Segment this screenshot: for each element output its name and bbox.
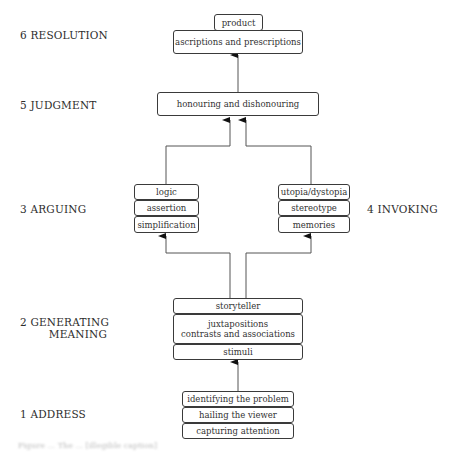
box-utopia-dystopia: utopia/dystopia bbox=[278, 184, 350, 200]
stage-label-resolution: 6 RESOLUTION bbox=[20, 29, 108, 41]
stage-label-address: 1 ADDRESS bbox=[20, 408, 86, 420]
box-identifying-problem: identifying the problem bbox=[182, 391, 294, 407]
stage-label-generating-meaning: 2 GENERATING MEANING bbox=[20, 316, 107, 340]
stage-label-generating-line2: MEANING bbox=[20, 328, 107, 340]
box-juxtapositions: juxtapositions contrasts and association… bbox=[173, 314, 303, 344]
box-logic: logic bbox=[134, 184, 199, 200]
box-hailing-viewer: hailing the viewer bbox=[182, 407, 294, 423]
box-ascriptions-prescriptions: ascriptions and prescriptions bbox=[173, 30, 303, 54]
stage-label-generating-line1: 2 GENERATING bbox=[20, 316, 107, 328]
stage-label-judgment: 5 JUDGMENT bbox=[20, 99, 97, 111]
box-simplification: simplification bbox=[134, 216, 199, 233]
figure-caption: Figure ... The ... [illegible caption] bbox=[18, 441, 157, 450]
stage-label-arguing: 3 ARGUING bbox=[20, 203, 86, 215]
juxtapositions-text: juxtapositions bbox=[208, 319, 268, 329]
connector-lines bbox=[0, 0, 452, 455]
box-capturing-attention: capturing attention bbox=[182, 423, 294, 439]
box-assertion: assertion bbox=[134, 200, 199, 216]
contrasts-associations-text: contrasts and associations bbox=[181, 329, 295, 339]
box-stimuli: stimuli bbox=[173, 344, 303, 360]
box-stereotype: stereotype bbox=[278, 200, 350, 216]
stage-label-invoking: 4 INVOKING bbox=[367, 203, 438, 215]
box-honouring-dishonouring: honouring and dishonouring bbox=[157, 92, 319, 116]
box-product: product bbox=[214, 14, 263, 31]
box-memories: memories bbox=[278, 216, 350, 233]
box-storyteller: storyteller bbox=[173, 298, 303, 314]
